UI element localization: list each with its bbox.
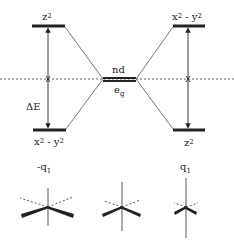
right-delta-e-arrow	[186, 30, 190, 126]
delta-e-label: ΔE	[26, 102, 41, 112]
regular-octahedron-molecule	[102, 182, 141, 231]
left-top-level-label: z2	[42, 12, 52, 22]
left-bottom-level-label: x2 - y2	[34, 137, 64, 147]
correlation-line	[66, 79, 103, 129]
center-level-top-label: nd	[112, 65, 125, 75]
correlation-line	[65, 27, 103, 79]
elongated-octahedron-molecule	[174, 178, 198, 238]
negative-q1-label: -q1	[37, 162, 51, 176]
compressed-octahedron-molecule	[20, 188, 74, 226]
correlation-line	[136, 79, 173, 129]
correlation-line	[136, 27, 173, 79]
q1-label: q1	[180, 162, 191, 176]
orbital-splitting-diagram	[0, 0, 234, 244]
center-level-bottom-label: eg	[114, 85, 124, 99]
right-top-level-label: x2 - y2	[172, 12, 202, 22]
right-bottom-level-label: z2	[184, 138, 194, 148]
left-delta-e-arrow	[46, 30, 50, 126]
